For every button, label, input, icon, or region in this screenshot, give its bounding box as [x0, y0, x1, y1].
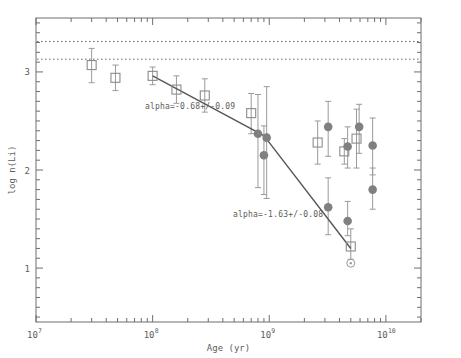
axis-frame	[36, 18, 421, 322]
axis-tick-group	[36, 18, 421, 322]
figure-panel: 1071081091010123 alpha=-0.68+/-0.09alpha…	[0, 0, 461, 358]
svg-text:10: 10	[388, 327, 396, 335]
x-tick-label: 1010	[377, 327, 396, 340]
svg-text:10: 10	[377, 330, 388, 340]
error-bar-group	[89, 48, 376, 259]
svg-text:10: 10	[260, 330, 271, 340]
svg-text:10: 10	[27, 330, 38, 340]
data-point-filled-circle	[260, 151, 269, 160]
svg-text:8: 8	[155, 327, 159, 335]
data-point-filled-circle	[324, 123, 333, 132]
data-marker-group	[87, 61, 377, 268]
annotation-fit1: alpha=-0.68+/-0.09	[145, 102, 235, 111]
reference-line-group	[37, 42, 420, 60]
data-point-filled-circle	[262, 133, 271, 142]
solar-symbol-dot-icon	[350, 262, 352, 264]
data-point-filled-circle	[343, 142, 352, 151]
svg-text:9: 9	[271, 327, 275, 335]
plot-frame	[36, 18, 421, 322]
data-point-filled-circle	[355, 123, 364, 132]
y-tick-label: 2	[25, 166, 30, 176]
data-point-filled-circle	[368, 141, 377, 150]
data-point-filled-circle	[254, 129, 263, 138]
data-point-filled-circle	[368, 185, 377, 194]
late-decline-fit	[264, 136, 351, 249]
annotation-fit2: alpha=-1.63+/-0.08	[233, 210, 323, 219]
svg-text:10: 10	[144, 330, 155, 340]
x-tick-label: 108	[144, 327, 159, 340]
y-axis-label: log n(Li)	[7, 146, 17, 195]
svg-text:7: 7	[38, 327, 42, 335]
lithium-abundance-scatter-plot: 1071081091010123 alpha=-0.68+/-0.09alpha…	[0, 0, 461, 358]
x-axis-label: Age (yr)	[207, 343, 250, 353]
y-tick-label: 3	[25, 67, 30, 77]
x-tick-label: 109	[260, 327, 275, 340]
data-point-filled-circle	[343, 217, 352, 226]
y-tick-label: 1	[25, 264, 30, 274]
data-point-filled-circle	[324, 203, 333, 212]
x-tick-label: 107	[27, 327, 42, 340]
